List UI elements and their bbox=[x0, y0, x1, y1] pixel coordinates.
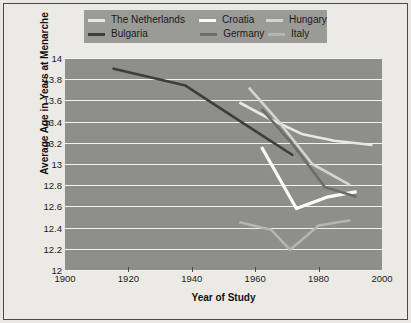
x-axis-tick-mark bbox=[192, 267, 193, 272]
chart-legend: The Netherlands Croatia Hungary Bulgaria… bbox=[84, 10, 327, 43]
legend-line-icon bbox=[200, 33, 217, 36]
legend-item-hungary: Hungary bbox=[266, 13, 323, 27]
data-series-layer bbox=[65, 58, 382, 270]
legend-item-the-netherlands: The Netherlands bbox=[88, 13, 199, 27]
legend-item-label: Croatia bbox=[222, 14, 254, 26]
x-axis-ticks: 190019201940196019802000 bbox=[65, 273, 382, 287]
gridline bbox=[65, 270, 382, 271]
chart-figure: The Netherlands Croatia Hungary Bulgaria… bbox=[0, 0, 411, 323]
x-axis-tick-label: 1960 bbox=[245, 273, 266, 284]
y-axis-tick-label: 12.2 bbox=[22, 243, 62, 254]
series-line-italy bbox=[239, 220, 350, 250]
y-axis-tick-label: 12.4 bbox=[22, 222, 62, 233]
legend-line-icon bbox=[199, 19, 216, 22]
legend-item-label: Hungary bbox=[289, 14, 327, 26]
plot-area-wrapper bbox=[65, 58, 382, 270]
series-line-the-netherlands bbox=[239, 103, 372, 145]
x-axis-tick-label: 1940 bbox=[181, 273, 202, 284]
legend-item-germany: Germany bbox=[200, 27, 268, 41]
legend-line-icon bbox=[88, 33, 105, 36]
x-axis-title: Year of Study bbox=[65, 292, 382, 303]
legend-item-label: The Netherlands bbox=[111, 14, 185, 26]
legend-item-label: Italy bbox=[291, 28, 309, 40]
legend-item-label: Germany bbox=[223, 28, 264, 40]
series-line-croatia bbox=[262, 147, 357, 208]
legend-item-label: Bulgaria bbox=[111, 28, 148, 40]
x-axis-tick-mark bbox=[255, 267, 256, 272]
series-line-bulgaria bbox=[113, 69, 294, 156]
y-axis-tick-label: 12.8 bbox=[22, 180, 62, 191]
y-axis-tick-label: 12.6 bbox=[22, 201, 62, 212]
x-axis-tick-mark bbox=[128, 267, 129, 272]
x-axis-tick-label: 1980 bbox=[308, 273, 329, 284]
y-axis-title: Average Age in Years at Menarche bbox=[39, 9, 50, 179]
legend-row: The Netherlands Croatia Hungary bbox=[88, 13, 323, 27]
legend-line-icon bbox=[266, 19, 283, 22]
legend-item-italy: Italy bbox=[268, 27, 323, 41]
legend-line-icon bbox=[268, 33, 285, 36]
x-axis-tick-mark bbox=[319, 267, 320, 272]
x-axis-tick-label: 1900 bbox=[54, 273, 75, 284]
legend-row: Bulgaria Germany Italy bbox=[88, 27, 323, 41]
legend-line-icon bbox=[88, 19, 105, 22]
x-axis-tick-label: 1920 bbox=[118, 273, 139, 284]
legend-item-bulgaria: Bulgaria bbox=[88, 27, 200, 41]
legend-item-croatia: Croatia bbox=[199, 13, 266, 27]
x-axis-tick-label: 2000 bbox=[371, 273, 392, 284]
